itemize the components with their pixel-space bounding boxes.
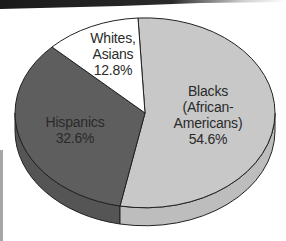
label-blacks-pct: 54.6% [189, 131, 228, 147]
top-shadow-band [0, 0, 286, 9]
label-blacks-line3: Americans) [174, 115, 243, 131]
label-blacks-line2: (African- [182, 99, 234, 115]
label-whites-line2: Asians [93, 46, 134, 62]
slice-label-whites: Whites, Asians 12.8% [90, 30, 135, 78]
label-hispanics-pct: 32.6% [56, 130, 95, 146]
label-hispanics-line1: Hispanics [46, 114, 105, 130]
label-whites-line1: Whites, [90, 30, 135, 46]
pie-chart: Whites, Asians 12.8% Blacks (African- Am… [0, 0, 286, 241]
pie-top [15, 18, 275, 208]
label-blacks-line1: Blacks [188, 83, 228, 99]
label-whites-pct: 12.8% [94, 62, 133, 78]
left-edge-strip [0, 150, 3, 241]
